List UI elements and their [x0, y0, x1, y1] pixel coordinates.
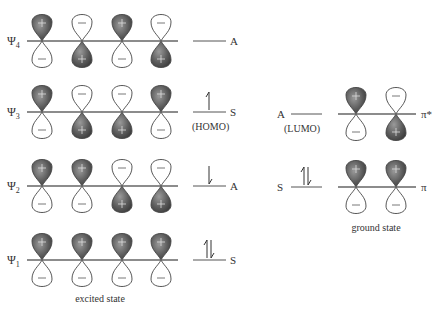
- symmetry-label: S: [230, 106, 236, 118]
- excited-level-1: Ψ1: [7, 234, 226, 287]
- symmetry-label: A: [230, 35, 238, 47]
- symmetry-label: A: [230, 180, 238, 192]
- psi-label: Ψ1: [7, 253, 20, 269]
- ground-level-1: [291, 161, 416, 214]
- excited-level-2: Ψ2: [7, 160, 226, 213]
- orbital-tag: (LUMO): [284, 123, 320, 135]
- excited-state-caption: excited state: [75, 293, 125, 304]
- orbital-diagram: Ψ4AΨ3S(HOMO)Ψ2AΨ1Sexcited stateAπ*(LUMO)…: [0, 0, 440, 316]
- symmetry-label: S: [230, 254, 236, 266]
- orbital-tag: (HOMO): [192, 121, 229, 133]
- ground-state-caption: ground state: [351, 222, 401, 233]
- orbital-name: π*: [421, 108, 432, 120]
- symmetry-label: A: [277, 108, 285, 120]
- psi-label: Ψ4: [7, 34, 20, 50]
- orbital-name: π: [421, 181, 427, 193]
- psi-label: Ψ2: [7, 179, 20, 195]
- psi-label: Ψ3: [7, 105, 20, 121]
- symmetry-label: S: [277, 181, 283, 193]
- excited-level-4: Ψ4: [7, 15, 226, 68]
